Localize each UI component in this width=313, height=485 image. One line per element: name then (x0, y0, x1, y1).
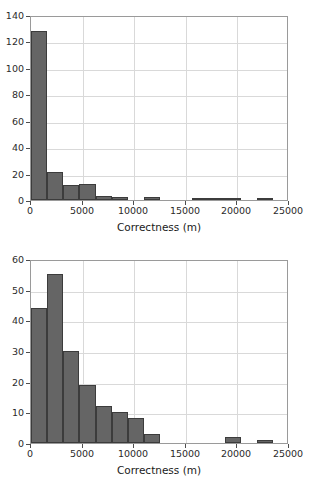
x-axis-title-bottom: Correctness (m) (30, 464, 288, 476)
gridline-horizontal (31, 322, 287, 323)
gridline-horizontal (31, 176, 287, 177)
histogram-bar (128, 418, 144, 443)
gridline-horizontal (31, 123, 287, 124)
y-axis-tick (26, 16, 30, 17)
histogram-bar (225, 198, 241, 200)
histogram-bar (225, 437, 241, 443)
histogram-bar (63, 185, 79, 200)
x-axis-tick-label: 10000 (108, 206, 158, 216)
x-axis-tick-label: 5000 (57, 449, 107, 459)
histogram-bar (112, 412, 128, 443)
x-axis-tick-label: 20000 (211, 449, 261, 459)
histogram-bar (63, 351, 79, 443)
y-axis-tick-label: 0 (0, 196, 24, 206)
y-axis-tick-label: 30 (0, 347, 24, 357)
histogram-bar (79, 385, 95, 443)
y-axis-tick (26, 291, 30, 292)
x-axis-tick-label: 0 (5, 206, 55, 216)
histogram-bar (31, 31, 47, 200)
y-axis-tick-label: 140 (0, 11, 24, 21)
gridline-horizontal (31, 292, 287, 293)
x-axis-tick-label: 0 (5, 449, 55, 459)
histogram-bar (79, 184, 95, 200)
y-axis-tick-label: 100 (0, 64, 24, 74)
gridline-vertical (134, 261, 135, 443)
histogram-figure-bottom: 05000100001500020000250000102030405060 C… (0, 242, 313, 485)
x-axis-tick-label: 15000 (160, 206, 210, 216)
x-axis-title-top: Correctness (m) (30, 221, 288, 233)
histogram-figure-top: 0500010000150002000025000020406080100120… (0, 0, 313, 242)
y-axis-tick-label: 40 (0, 143, 24, 153)
gridline-vertical (186, 17, 187, 200)
x-axis-tick-label: 20000 (211, 206, 261, 216)
histogram-bar (47, 274, 63, 443)
gridline-horizontal (31, 149, 287, 150)
gridline-vertical (237, 17, 238, 200)
gridline-horizontal (31, 70, 287, 71)
y-axis-tick-label: 80 (0, 90, 24, 100)
x-axis-tick-label: 25000 (263, 206, 313, 216)
gridline-vertical (83, 17, 84, 200)
gridline-vertical (237, 261, 238, 443)
plot-area-top (30, 16, 288, 201)
histogram-bar (257, 440, 273, 443)
histogram-bar (257, 198, 273, 200)
y-axis-tick-label: 50 (0, 286, 24, 296)
y-axis-tick (26, 69, 30, 70)
y-axis-tick-label: 60 (0, 117, 24, 127)
histogram-bar (96, 196, 112, 200)
histogram-bar (31, 308, 47, 443)
y-axis-tick (26, 175, 30, 176)
y-axis-tick (26, 383, 30, 384)
gridline-vertical (186, 261, 187, 443)
x-axis-tick-label: 10000 (108, 449, 158, 459)
y-axis-tick (26, 122, 30, 123)
y-axis-tick-label: 60 (0, 255, 24, 265)
histogram-bar (192, 198, 208, 200)
histogram-bar (47, 172, 63, 200)
y-axis-tick (26, 42, 30, 43)
y-axis-tick-label: 20 (0, 378, 24, 388)
histogram-bar (144, 197, 160, 200)
y-axis-tick (26, 201, 30, 202)
y-axis-tick-label: 40 (0, 316, 24, 326)
y-axis-tick (26, 148, 30, 149)
plot-area-bottom (30, 260, 288, 444)
x-axis-tick-label: 5000 (57, 206, 107, 216)
y-axis-tick (26, 444, 30, 445)
y-axis-tick-label: 0 (0, 439, 24, 449)
x-axis-tick-label: 15000 (160, 449, 210, 459)
y-axis-tick-label: 120 (0, 37, 24, 47)
gridline-vertical (134, 17, 135, 200)
histogram-bar (208, 198, 224, 200)
y-axis-tick (26, 95, 30, 96)
histogram-bar (144, 434, 160, 443)
gridline-horizontal (31, 96, 287, 97)
histogram-bar (96, 406, 112, 443)
y-axis-tick (26, 321, 30, 322)
y-axis-tick-label: 10 (0, 408, 24, 418)
gridline-horizontal (31, 43, 287, 44)
x-axis-tick-label: 25000 (263, 449, 313, 459)
y-axis-tick (26, 352, 30, 353)
histogram-bar (112, 197, 128, 200)
y-axis-tick (26, 413, 30, 414)
y-axis-tick (26, 260, 30, 261)
y-axis-tick-label: 20 (0, 170, 24, 180)
